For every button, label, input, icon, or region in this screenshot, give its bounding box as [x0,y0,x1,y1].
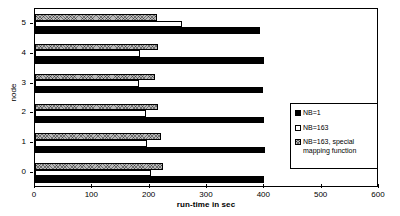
bar-2-series-1 [35,110,146,117]
x-tick-mark-500 [321,184,322,188]
bar-1-series-2 [35,133,161,140]
y-tick-label-3: 3 [0,79,26,87]
bar-2-series-0 [35,117,264,124]
y-tick-mark-3 [30,83,33,84]
y-tick-label-1: 1 [0,138,26,146]
bar-5-series-2 [35,14,157,21]
x-tick-mark-300 [206,184,207,188]
y-tick-mark-1 [30,142,33,143]
y-tick-mark-5 [30,23,33,24]
x-tick-label-400: 400 [243,191,283,199]
bar-4-series-0 [35,57,264,64]
x-axis-title: run-time in sec [34,200,378,209]
legend-label-0: NB=1 [303,109,321,118]
legend-item-0: NB=1 [295,109,377,118]
x-tick-mark-600 [378,184,379,188]
legend-swatch-icon-2 [295,139,301,145]
y-tick-mark-0 [30,172,33,173]
bar-0-series-2 [35,163,163,170]
legend-item-1: NB=163 [295,124,377,133]
bar-4-series-2 [35,44,158,51]
bar-3-series-0 [35,87,263,94]
x-tick-label-600: 600 [358,191,398,199]
bar-3-series-2 [35,74,155,81]
legend-label-2: NB=163, special mapping function [303,138,356,155]
bar-5-series-0 [35,27,260,34]
legend: NB=1NB=163NB=163, special mapping functi… [290,103,378,169]
legend-label-1: NB=163 [303,124,329,133]
legend-item-2: NB=163, special mapping function [295,138,377,155]
bar-1-series-0 [35,147,265,154]
legend-swatch-icon-1 [295,125,301,131]
y-tick-label-0: 0 [0,168,26,176]
bar-1-series-1 [35,140,147,147]
bar-2-series-2 [35,104,158,111]
y-tick-mark-4 [30,53,33,54]
x-tick-label-300: 300 [186,191,226,199]
x-tick-mark-200 [149,184,150,188]
x-tick-mark-0 [34,184,35,188]
x-tick-label-500: 500 [301,191,341,199]
bar-chart: node 012345 0100200300400500600 run-time… [0,0,400,216]
bar-5-series-1 [35,21,182,28]
x-tick-label-200: 200 [129,191,169,199]
x-tick-label-100: 100 [71,191,111,199]
x-tick-mark-400 [263,184,264,188]
bar-3-series-1 [35,80,139,87]
x-tick-mark-100 [91,184,92,188]
legend-swatch-icon-0 [295,110,301,116]
bar-0-series-1 [35,170,151,177]
y-tick-label-5: 5 [0,19,26,27]
y-tick-label-4: 4 [0,49,26,57]
y-axis-ticks: 012345 [0,8,30,187]
bar-4-series-1 [35,50,140,57]
x-tick-label-0: 0 [14,191,54,199]
y-tick-mark-2 [30,112,33,113]
bar-0-series-0 [35,176,264,183]
y-tick-label-2: 2 [0,108,26,116]
